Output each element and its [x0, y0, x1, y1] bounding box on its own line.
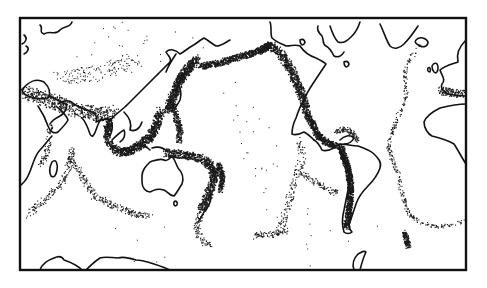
coast-antarctica [40, 257, 170, 270]
coast-tasmania [174, 201, 178, 206]
coastlines [20, 22, 466, 270]
coast-west-africa [424, 104, 466, 164]
seismicity-map: world seismicity map [0, 0, 487, 288]
coast-canada-arctic [300, 26, 349, 67]
coast-africa [20, 136, 52, 186]
coast-ne-asia [158, 38, 230, 74]
coast-scandinavia [22, 22, 72, 54]
coast-greenland [380, 24, 418, 48]
coast-madagascar [50, 161, 57, 177]
coast-antarctic-peninsula [353, 251, 366, 270]
earthquake-epicenters [21, 22, 466, 267]
map-canvas [0, 0, 487, 288]
coast-british-isles [428, 63, 438, 73]
coast-australia [142, 156, 183, 196]
coast-iceland [415, 38, 428, 47]
